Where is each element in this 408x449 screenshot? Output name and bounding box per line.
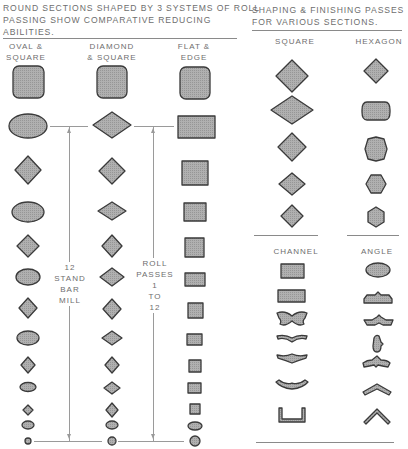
roll-pass-diagram xyxy=(0,0,408,449)
channel-finishing-passes xyxy=(276,264,308,422)
hexagon-finishing-passes xyxy=(362,59,390,227)
square-finishing-passes xyxy=(271,60,313,227)
oval-square-passes xyxy=(9,66,47,444)
diamond-square-passes xyxy=(93,66,131,445)
angle-finishing-passes xyxy=(363,263,393,424)
flat-edge-passes xyxy=(178,67,215,446)
